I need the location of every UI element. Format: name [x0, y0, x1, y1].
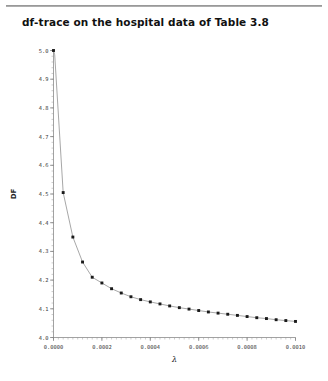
data-point [246, 315, 249, 318]
y-tick-label: 4.1 [39, 306, 49, 312]
data-point [100, 282, 103, 285]
y-tick-label: 4.3 [39, 248, 49, 254]
x-tick-label: 0.0006 [189, 344, 208, 350]
y-tick-label: 4.7 [39, 134, 49, 140]
data-series [52, 49, 297, 323]
data-point [255, 316, 258, 319]
data-point [71, 236, 74, 239]
data-point [284, 319, 287, 322]
y-tick-label: 4.2 [39, 277, 49, 283]
data-point [294, 320, 297, 323]
series-line [54, 51, 296, 322]
x-axis-title: λ [171, 355, 177, 364]
data-point [197, 309, 200, 312]
y-axis-title: DF [10, 188, 18, 199]
data-point [236, 314, 239, 317]
data-point [139, 298, 142, 301]
y-tick-label: 4.6 [39, 162, 49, 168]
data-point [81, 261, 84, 264]
y-tick-label: 5.0 [39, 48, 49, 54]
data-point [275, 318, 278, 321]
data-point [178, 306, 181, 309]
data-point [265, 317, 268, 320]
x-tick-label: 0.0004 [141, 344, 160, 350]
df-trace-chart: 4.04.14.24.34.44.54.64.74.84.95.0 0.0000… [0, 0, 328, 381]
y-tick-label: 4.9 [39, 76, 49, 82]
y-axis: 4.04.14.24.34.44.54.64.74.84.95.0 [39, 48, 54, 341]
data-point [62, 191, 65, 194]
x-tick-label: 0.0010 [286, 344, 305, 350]
data-point [168, 304, 171, 307]
data-point [120, 292, 123, 295]
y-tick-label: 4.4 [39, 220, 49, 226]
data-point [91, 276, 94, 279]
data-point [159, 302, 162, 305]
data-point [110, 287, 113, 290]
data-point [149, 300, 152, 303]
y-tick-label: 4.8 [39, 105, 49, 111]
data-point [52, 49, 55, 52]
data-point [207, 311, 210, 314]
data-point [217, 312, 220, 315]
data-point [226, 313, 229, 316]
y-tick-label: 4.0 [39, 335, 49, 341]
chart-container: 4.04.14.24.34.44.54.64.74.84.95.0 0.0000… [0, 0, 328, 381]
data-point [129, 295, 132, 298]
y-tick-label: 4.5 [39, 191, 49, 197]
x-axis: 0.00000.00020.00040.00060.00080.0010 [44, 338, 305, 351]
data-point [188, 308, 191, 311]
x-tick-label: 0.0000 [44, 344, 63, 350]
x-tick-label: 0.0002 [92, 344, 111, 350]
x-tick-label: 0.0008 [237, 344, 256, 350]
